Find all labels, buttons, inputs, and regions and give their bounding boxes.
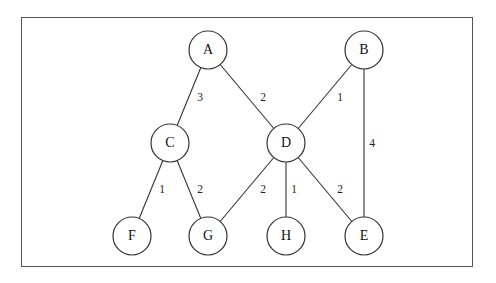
node-label: C	[165, 135, 174, 150]
edge-weight-b-e: 4	[369, 137, 375, 149]
edge-weight-c-g: 2	[197, 183, 203, 195]
edge-weight-d-h: 1	[291, 183, 297, 195]
node-label: G	[203, 228, 213, 243]
node-c: C	[151, 124, 189, 162]
node-d: D	[267, 124, 305, 162]
node-f: F	[113, 217, 151, 255]
node-label: F	[128, 228, 136, 243]
node-label: A	[203, 42, 214, 57]
edge-weight-a-c: 3	[197, 91, 203, 103]
graph-canvas: 321412212 ABCDFGHE	[0, 0, 496, 283]
node-label: D	[281, 135, 291, 150]
node-g: G	[189, 217, 227, 255]
node-label: H	[281, 228, 291, 243]
node-h: H	[267, 217, 305, 255]
edge-weight-c-f: 1	[159, 183, 165, 195]
node-b: B	[345, 31, 383, 69]
node-label: E	[360, 228, 369, 243]
edge-weight-d-e: 2	[337, 183, 343, 195]
nodes-layer: ABCDFGHE	[113, 31, 383, 255]
edge-weight-a-d: 2	[260, 91, 266, 103]
node-e: E	[345, 217, 383, 255]
edge-weight-b-d: 1	[337, 91, 343, 103]
node-label: B	[359, 42, 368, 57]
edge-weight-d-g: 2	[260, 183, 266, 195]
node-a: A	[189, 31, 227, 69]
